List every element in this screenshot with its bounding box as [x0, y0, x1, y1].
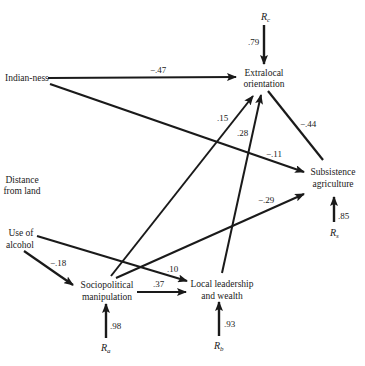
coef-rs: .85: [338, 211, 350, 221]
coef-alcohol-local: .10: [167, 264, 179, 274]
node-extralocal-line1: Extralocal: [244, 68, 283, 78]
coef-extralocal-subsistence: −.44: [300, 119, 317, 129]
coef-indian-extralocal: −.47: [150, 65, 167, 75]
coef-rb: .93: [224, 319, 236, 329]
residual-ra: Ra: [100, 342, 111, 355]
node-sociopolitical-line2: manipulation: [82, 292, 132, 302]
node-subsistence-line2: agriculture: [312, 179, 353, 189]
node-alcohol-line2: alcohol: [6, 240, 34, 250]
coef-socio-extralocal: .15: [217, 113, 229, 123]
residual-rc: Rc: [260, 11, 271, 24]
coef-indian-subsistence: −.11: [266, 149, 282, 159]
node-alcohol-line1: Use of: [8, 228, 34, 238]
node-extralocal-line2: orientation: [243, 79, 284, 89]
node-local-line2: and wealth: [201, 291, 243, 301]
node-distance-line1: Distance: [5, 175, 38, 185]
node-sociopolitical-line1: Sociopolitical: [81, 280, 134, 290]
coef-ra: .98: [110, 321, 122, 331]
node-subsistence-line1: Subsistence: [311, 167, 356, 177]
coef-rc: .79: [248, 37, 260, 47]
coef-socio-subsistence: −.29: [258, 195, 275, 205]
path-diagram: Indian-ness Distance from land Use of al…: [0, 0, 365, 366]
node-indianness: Indian-ness: [5, 73, 49, 83]
edge-alcohol-to-socio: [24, 251, 73, 285]
node-distance-line2: from land: [3, 186, 40, 196]
residual-rs: Rs: [329, 227, 339, 240]
residual-rb: Rb: [213, 340, 224, 353]
coef-alcohol-socio: −.18: [50, 258, 67, 268]
edge-socio-to-subsistence: [116, 194, 304, 278]
coef-local-extralocal: .28: [237, 128, 249, 138]
node-local-line1: Local leadership: [190, 279, 253, 289]
edges: [24, 25, 334, 338]
coef-socio-local: .37: [153, 279, 165, 289]
edge-indian-to-extralocal: [48, 77, 236, 78]
